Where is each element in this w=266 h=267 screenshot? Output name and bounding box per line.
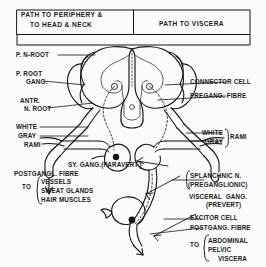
header-left-line1: PATH TO PERIPHERY & <box>21 11 103 19</box>
brace-rami-right <box>224 128 231 148</box>
gray-matter-butterfly <box>101 50 163 120</box>
label-splanchnic-nerve: SPLANCHNIC N. <box>190 172 241 180</box>
label-gray-ramus-right: GRAY <box>186 138 223 146</box>
label-posterior-root-ganglion-line2: GANG. <box>26 78 47 86</box>
label-target-sweat-glands: SWEAT GLANDS <box>41 187 93 195</box>
leader-antr-n-root <box>48 103 93 108</box>
label-postganglionic-fibre-right: POSTGANG. FIBRE <box>190 224 251 232</box>
label-pelvic: PELVIC <box>208 246 231 254</box>
header-left-line2: TO HEAD & NECK <box>30 21 92 29</box>
label-gray-ramus-left: GRAY <box>18 132 36 140</box>
label-visceral-ganglion: VISCERAL GANG. <box>189 193 247 201</box>
label-postganglionic-fibre-left: POSTGANGL. FIBRE <box>14 170 79 178</box>
brace-splanchnic <box>184 170 191 190</box>
anterior-root-left <box>80 108 100 128</box>
label-visceral-ganglion-prevert: (PREVERT) <box>206 201 241 209</box>
label-white-ramus-left: WHITE <box>16 123 37 131</box>
brace-right <box>201 234 211 264</box>
posterior-root-left <box>67 52 95 109</box>
label-anterior-root-line1: ANTR. <box>20 97 40 105</box>
label-posterior-nerve-root: P. N-ROOT <box>16 51 49 59</box>
header-right: PATH TO VISCERA <box>138 20 245 28</box>
label-rami-left: RAMI <box>24 141 41 149</box>
label-target-hair-muscles: HAIR MUSCLES <box>41 196 91 204</box>
leader-p-root-gang <box>44 81 85 85</box>
label-to-left: TO <box>22 183 31 191</box>
label-abdominal: ABDOMINAL <box>208 237 248 245</box>
label-splanchnic-preganglionic: (PREGANGLIONIC) <box>188 181 248 189</box>
label-viscera: VISCERA <box>218 255 247 263</box>
label-anterior-root-line2: N. ROOT <box>24 105 51 113</box>
splanchnic-nerve <box>130 168 157 225</box>
label-target-vessels: VESSELS <box>41 178 71 186</box>
postganglionic-fibre-visceral <box>129 224 143 255</box>
label-excitor-cell: EXCITOR CELL <box>190 214 238 222</box>
label-connector-cell: CONNECTOR CELL <box>190 78 251 86</box>
label-preganglionic-fibre: PREGANG. FIBRE <box>190 92 246 100</box>
label-to-right: TO <box>190 241 199 249</box>
connector-cell-bodies <box>111 83 152 89</box>
label-sympathetic-ganglion: SY. GANG.(PARAVERT.) <box>68 161 142 169</box>
label-posterior-root-ganglion-line1: P. ROOT <box>16 70 42 78</box>
brace-left <box>33 175 45 207</box>
label-rami-right: RAMI <box>230 133 247 141</box>
preganglionic-fibre-trace <box>103 87 167 151</box>
figure-canvas: PATH TO PERIPHERY & TO HEAD & NECK PATH … <box>0 0 266 267</box>
label-white-ramus-right: WHITE <box>186 129 223 137</box>
